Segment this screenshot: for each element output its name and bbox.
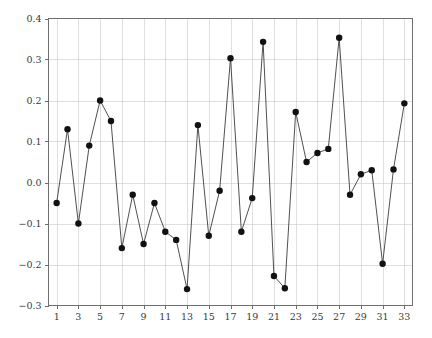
line-chart: −0.3−0.2−0.10.00.10.20.30.4 135791113151… [0,0,432,338]
x-tick-label: 9 [141,311,147,322]
x-tick-label: 3 [75,311,81,322]
x-tick-label: 29 [355,311,367,322]
data-point [358,171,364,177]
data-point [238,229,244,235]
data-point [347,192,353,198]
data-point [173,237,179,243]
data-point [260,39,266,45]
x-tick-label: 23 [290,311,302,322]
data-point [249,195,255,201]
data-point [303,159,309,165]
data-point [130,192,136,198]
y-tick-label: 0.3 [26,54,41,65]
data-point [314,150,320,156]
data-point [369,167,375,173]
x-tick-label: 5 [97,311,103,322]
chart-figure: −0.3−0.2−0.10.00.10.20.30.4 135791113151… [0,0,432,338]
y-tick-label: 0.1 [26,136,41,147]
x-tick-label: 13 [181,311,193,322]
y-tick-label: 0.4 [26,13,41,24]
x-tick-label: 15 [203,311,215,322]
data-point [227,55,233,61]
x-tick-label: 33 [398,311,410,322]
data-point [390,166,396,172]
data-point [86,142,92,148]
data-point [336,35,342,41]
x-tick-label: 7 [119,311,125,322]
y-tick-label: −0.1 [18,218,41,229]
x-tick-label: 17 [224,311,236,322]
y-tick-label: −0.2 [18,259,41,270]
data-point [162,229,168,235]
data-point [195,122,201,128]
data-point [206,233,212,239]
data-point [184,286,190,292]
y-tick-label: 0.0 [26,177,41,188]
x-tick-label: 19 [246,311,258,322]
data-point [216,188,222,194]
data-point [271,273,277,279]
x-tick-label: 11 [159,311,171,322]
data-point [53,200,59,206]
data-point [325,146,331,152]
data-point [97,97,103,103]
plot-background [0,0,432,338]
data-point [292,109,298,115]
x-tick-label: 21 [268,311,280,322]
x-tick-label: 27 [333,311,345,322]
y-tick-label: 0.2 [26,95,41,106]
data-point [75,220,81,226]
x-tick-label: 25 [311,311,323,322]
data-point [401,100,407,106]
x-tick-label: 31 [377,311,389,322]
data-point [64,126,70,132]
data-point [140,241,146,247]
data-point [379,260,385,266]
x-tick-label: 1 [54,311,60,322]
data-point [119,245,125,251]
data-point [108,118,114,124]
y-tick-label: −0.3 [18,300,41,311]
data-point [151,200,157,206]
data-point [282,285,288,291]
